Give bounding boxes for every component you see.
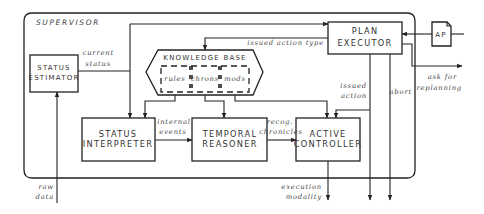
edge-chrons-to-reasoner: [205, 95, 224, 118]
label-raw-data-1: raw: [38, 183, 54, 191]
label-issued-action-2: action: [341, 92, 367, 100]
label-execution-modality-2: modality: [286, 193, 322, 201]
kb-section-chrons: chrons: [191, 75, 219, 83]
connections: [57, 24, 464, 203]
kb-section-rules: rules: [164, 75, 185, 83]
label-raw-data-2: data: [36, 193, 54, 201]
status-estimator-label-2: ESTIMATOR: [29, 74, 80, 82]
node-status-estimator[interactable]: STATUS ESTIMATOR: [29, 55, 80, 92]
label-internal-events-1: internal: [157, 118, 191, 126]
edge-rules-to-interpreter: [145, 95, 175, 118]
node-knowledge-base[interactable]: KNOWLEDGE BASE rules chrons mods: [146, 50, 263, 95]
supervisor-architecture-diagram: SUPERVISOR: [0, 0, 484, 214]
plan-executor-label-1: PLAN: [352, 26, 379, 36]
temporal-reasoner-label-1: TEMPORAL: [202, 129, 258, 139]
edge-issued-action-to-controller: [336, 110, 370, 118]
node-plan-executor[interactable]: PLAN EXECUTOR: [328, 22, 402, 54]
ap-document-label: AP: [435, 31, 446, 39]
label-issued-action-type: issued action type: [247, 39, 324, 47]
label-abort: abort: [390, 88, 412, 96]
plan-executor-label-2: EXECUTOR: [337, 38, 392, 48]
label-issued-action-1: issued: [340, 82, 367, 90]
status-estimator-label-1: STATUS: [37, 64, 70, 72]
label-execution-modality-1: execution: [281, 183, 322, 191]
node-ap-document[interactable]: AP: [432, 22, 451, 46]
label-ask-for-replanning-2: replanning: [416, 84, 462, 92]
label-recog-chronicles-2: chronicles: [259, 128, 303, 136]
active-controller-label-1: ACTIVE: [309, 129, 346, 139]
label-recog-chronicles-1: recog.: [267, 118, 293, 126]
node-status-interpreter[interactable]: STATUS INTERPRETER: [82, 118, 155, 161]
edge-ask-for-replanning: [402, 44, 462, 66]
label-internal-events-2: events: [159, 128, 186, 136]
label-ask-for-replanning-1: ask for: [428, 73, 457, 81]
active-controller-label-2: CONTROLLER: [294, 139, 362, 149]
supervisor-label: SUPERVISOR: [36, 18, 100, 27]
node-active-controller[interactable]: ACTIVE CONTROLLER: [294, 118, 362, 161]
status-interpreter-label-1: STATUS: [99, 129, 138, 139]
node-temporal-reasoner[interactable]: TEMPORAL REASONER: [192, 118, 267, 161]
edge-mods-to-controller: [235, 95, 327, 118]
temporal-reasoner-label-2: REASONER: [202, 139, 258, 149]
status-interpreter-label-2: INTERPRETER: [83, 139, 153, 149]
label-current-status-1: current: [83, 49, 114, 57]
label-current-status-2: status: [85, 60, 111, 68]
kb-section-mods: mods: [224, 75, 246, 83]
knowledge-base-label: KNOWLEDGE BASE: [163, 54, 246, 62]
